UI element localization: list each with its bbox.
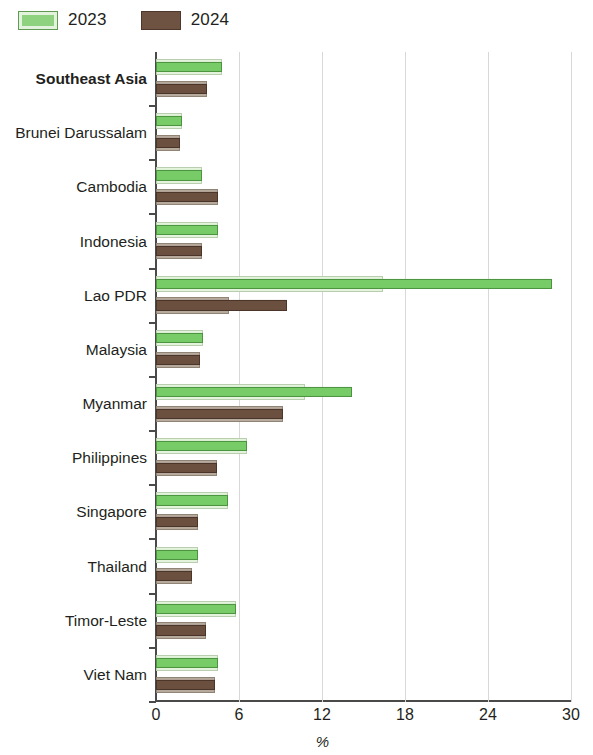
category-label-malaysia: Malaysia <box>86 341 147 358</box>
chart-row: Timor-Leste <box>156 594 571 648</box>
legend-swatch-2024 <box>141 11 181 30</box>
x-tick-label-30: 30 <box>562 706 580 724</box>
plot-area: Southeast AsiaBrunei DarussalamCambodiaI… <box>156 52 571 702</box>
chart-legend: 2023 2024 <box>18 6 229 34</box>
bar-2024-singapore <box>156 514 198 530</box>
bar-2023-lao-pdr <box>156 276 552 292</box>
category-label-philippines: Philippines <box>72 450 147 467</box>
category-label-singapore: Singapore <box>76 504 147 521</box>
category-label-brunei-darussalam: Brunei Darussalam <box>15 125 147 142</box>
y-axis-tick <box>149 430 156 432</box>
bar-core <box>156 138 180 148</box>
category-label-thailand: Thailand <box>88 558 147 575</box>
bar-2023-malaysia <box>156 330 203 346</box>
legend-label-2023: 2023 <box>68 10 107 30</box>
bar-2023-myanmar <box>156 384 352 400</box>
y-axis-tick <box>149 105 156 107</box>
bar-core <box>156 62 222 72</box>
chart-row: Thailand <box>156 540 571 594</box>
bar-core <box>156 495 228 505</box>
bar-core <box>156 387 352 397</box>
y-axis-tick <box>149 213 156 215</box>
bar-core <box>156 604 236 614</box>
bar-core <box>156 441 247 451</box>
y-axis-tick <box>149 647 156 649</box>
chart-row: Malaysia <box>156 323 571 377</box>
bar-2024-lao-pdr <box>156 297 287 313</box>
bar-core <box>156 625 206 635</box>
bar-chart: 2023 2024 Southeast AsiaBrunei Darussala… <box>0 0 593 755</box>
y-axis-tick <box>149 484 156 486</box>
chart-row: Brunei Darussalam <box>156 106 571 160</box>
chart-row: Myanmar <box>156 377 571 431</box>
bar-2024-cambodia <box>156 189 218 205</box>
category-label-viet-nam: Viet Nam <box>84 666 147 683</box>
legend-swatch-2023 <box>18 11 58 30</box>
category-label-indonesia: Indonesia <box>80 233 147 250</box>
bar-2023-thailand <box>156 547 198 563</box>
y-axis-tick <box>149 376 156 378</box>
bar-2024-philippines <box>156 460 217 476</box>
category-label-timor-leste: Timor-Leste <box>65 612 147 629</box>
bar-2024-viet-nam <box>156 677 215 693</box>
bar-core <box>156 279 552 289</box>
bar-2024-southeast-asia <box>156 81 207 97</box>
bar-2023-singapore <box>156 492 228 508</box>
y-axis-tick <box>149 322 156 324</box>
chart-row: Lao PDR <box>156 269 571 323</box>
x-tick-label-12: 12 <box>313 706 331 724</box>
category-label-cambodia: Cambodia <box>76 179 147 196</box>
bar-core <box>156 517 198 527</box>
bar-core <box>156 409 283 419</box>
bar-2024-myanmar <box>156 406 283 422</box>
legend-label-2024: 2024 <box>191 10 230 30</box>
chart-row: Philippines <box>156 431 571 485</box>
x-tick-label-0: 0 <box>152 706 161 724</box>
bar-core <box>156 192 218 202</box>
bar-2023-cambodia <box>156 167 202 183</box>
bar-core <box>156 84 207 94</box>
legend-item-2024: 2024 <box>141 10 230 30</box>
chart-row: Singapore <box>156 485 571 539</box>
bar-2023-viet-nam <box>156 655 218 671</box>
bar-2024-thailand <box>156 568 192 584</box>
y-axis-tick <box>149 268 156 270</box>
bar-2024-malaysia <box>156 352 200 368</box>
x-axis-title: % <box>0 733 593 750</box>
bar-2023-timor-leste <box>156 601 236 617</box>
bar-2024-timor-leste <box>156 622 206 638</box>
x-tick-label-6: 6 <box>235 706 244 724</box>
x-tick-label-18: 18 <box>396 706 414 724</box>
bar-core <box>156 116 182 126</box>
category-label-lao-pdr: Lao PDR <box>84 287 147 304</box>
bar-2024-brunei-darussalam <box>156 135 180 151</box>
bar-2023-southeast-asia <box>156 59 222 75</box>
y-axis-tick <box>149 538 156 540</box>
chart-row: Indonesia <box>156 215 571 269</box>
bar-core <box>156 571 192 581</box>
bar-core <box>156 550 198 560</box>
bar-core <box>156 333 203 343</box>
x-tick-label-24: 24 <box>479 706 497 724</box>
bar-core <box>156 225 218 235</box>
bar-core <box>156 658 218 668</box>
category-label-myanmar: Myanmar <box>82 396 147 413</box>
bar-2023-brunei-darussalam <box>156 113 182 129</box>
bar-core <box>156 170 202 180</box>
bar-core <box>156 300 287 310</box>
chart-row: Southeast Asia <box>156 52 571 106</box>
category-label-southeast-asia: Southeast Asia <box>36 71 147 88</box>
legend-item-2023: 2023 <box>18 10 107 30</box>
x-axis-title-text: % <box>316 733 329 750</box>
y-axis-tick <box>149 701 156 703</box>
bar-2023-philippines <box>156 438 247 454</box>
bar-core <box>156 246 202 256</box>
bar-2023-indonesia <box>156 222 218 238</box>
chart-row: Cambodia <box>156 160 571 214</box>
gridline-30 <box>571 52 572 702</box>
y-axis-tick <box>149 593 156 595</box>
y-axis-tick <box>149 159 156 161</box>
bar-core <box>156 680 215 690</box>
chart-row: Viet Nam <box>156 648 571 702</box>
bar-2024-indonesia <box>156 243 202 259</box>
